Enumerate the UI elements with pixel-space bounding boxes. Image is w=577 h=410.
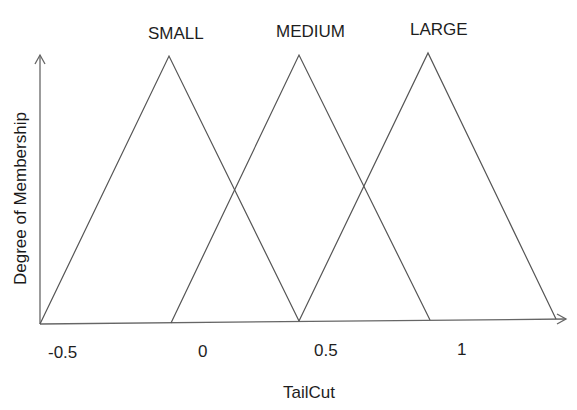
x-axis-label: TailCut bbox=[283, 383, 335, 403]
x-tick-neg-0-5: -0.5 bbox=[48, 343, 77, 363]
x-tick-1: 1 bbox=[457, 340, 466, 360]
set-label-large: LARGE bbox=[410, 20, 468, 40]
y-axis-label: Degree of Membership bbox=[11, 115, 31, 285]
set-label-medium: MEDIUM bbox=[276, 22, 345, 42]
x-tick-0: 0 bbox=[198, 342, 207, 362]
membership-plot bbox=[0, 0, 577, 410]
medium-membership-triangle bbox=[171, 55, 430, 323]
large-membership-triangle bbox=[299, 53, 556, 321]
axes bbox=[35, 55, 566, 324]
x-axis bbox=[40, 319, 566, 324]
small-membership-triangle bbox=[40, 56, 299, 324]
set-label-small: SMALL bbox=[148, 24, 204, 44]
x-tick-0-5: 0.5 bbox=[314, 341, 338, 361]
